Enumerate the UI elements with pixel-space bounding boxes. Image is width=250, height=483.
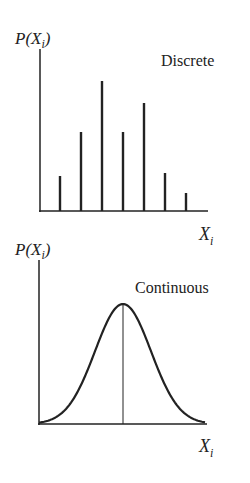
- continuous-chart: P(Xi) Continuous Xi: [14, 240, 213, 460]
- continuous-y-axis-label: P(Xi): [14, 240, 51, 262]
- discrete-bars: [60, 81, 186, 211]
- continuous-x-axis-label: Xi: [198, 436, 213, 460]
- discrete-y-axis-label: P(Xi): [14, 29, 51, 51]
- discrete-chart: P(Xi) Discrete Xi: [14, 29, 214, 248]
- bell-curve: [39, 304, 205, 423]
- discrete-title: Discrete: [161, 52, 214, 69]
- figure: P(Xi) Discrete Xi P(Xi) Continuous Xi: [0, 0, 250, 483]
- continuous-title: Continuous: [135, 279, 209, 296]
- discrete-x-axis-label: Xi: [198, 224, 213, 248]
